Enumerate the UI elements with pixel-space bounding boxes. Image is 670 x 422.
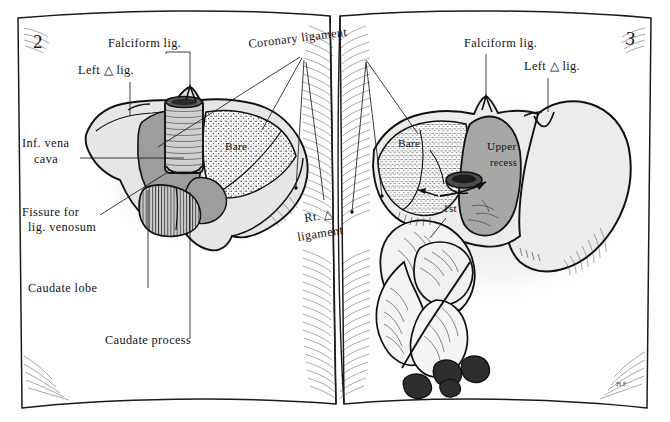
label-bare-area-left: Bare bbox=[225, 140, 247, 152]
illustration-plate: Falciform lig. Left △ lig. Inf. vena cav… bbox=[0, 0, 670, 422]
inferior-vena-cava-stump bbox=[165, 96, 203, 173]
label-first-part-duodenum: 1st bbox=[443, 202, 458, 214]
label-upper-recess-line1: Upper bbox=[487, 140, 516, 152]
label-left-triangular-lig-left: Left △ lig. bbox=[78, 63, 134, 77]
artist-signature: H.F. bbox=[616, 380, 628, 388]
label-bare-area-right: Bare bbox=[398, 137, 420, 149]
label-fissure-lig-venosum-line1: Fissure for bbox=[22, 205, 79, 219]
page-number-left: 2 bbox=[33, 31, 43, 52]
plate-canvas: Falciform lig. Left △ lig. Inf. vena cav… bbox=[0, 0, 670, 422]
duodenum-first-part bbox=[414, 242, 473, 305]
label-falciform-lig-right: Falciform lig. bbox=[464, 36, 537, 50]
label-inferior-vena-cava-line2: cava bbox=[34, 152, 58, 166]
label-caudate-lobe: Caudate lobe bbox=[28, 281, 97, 295]
label-left-triangular-lig-right: Left △ lig. bbox=[524, 59, 580, 73]
label-inferior-vena-cava-line1: Inf. vena bbox=[22, 136, 69, 150]
label-fissure-lig-venosum-line2: lig. venosum bbox=[28, 220, 96, 234]
label-caudate-process: Caudate process bbox=[105, 333, 191, 347]
label-upper-recess-line2: recess bbox=[490, 157, 517, 168]
label-falciform-lig-left: Falciform lig. bbox=[108, 36, 181, 50]
